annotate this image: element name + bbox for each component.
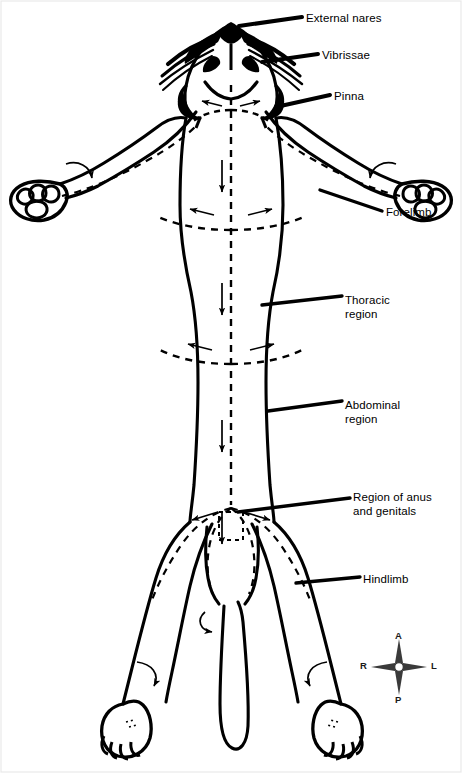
left-forepaw [11,181,68,220]
label-region-of-anus-and-genitals: Region of anus and genitals [353,491,432,518]
right-hindpaw [313,701,363,759]
leader-abdominal [268,401,342,411]
compass-rose [371,639,427,695]
compass-label-anterior: A [395,630,402,641]
label-abdominal-region: Abdominal region [345,399,400,426]
hindpaw-rotation-arrows [137,662,327,686]
figure-cat-ventral-anatomy: External nares Vibrissae Pinna Forelimb … [0,0,462,773]
label-thoracic-region: Thoracic region [345,294,390,321]
thoracic-arc-arrows [190,209,272,215]
label-hindlimb: Hindlimb [363,573,409,587]
leader-anus-genitals [238,498,350,512]
leader-thoracic [262,296,342,305]
compass-label-left: L [431,660,437,671]
pelvic-dashed-arrows [152,508,310,600]
compass-label-right: R [360,660,367,671]
label-pinna: Pinna [334,90,364,104]
leader-hindlimb [296,577,360,583]
compass-label-posterior: P [395,694,401,705]
label-external-nares: External nares [306,12,382,26]
pelvic-arrow-heads [192,512,270,520]
leader-external-nares [239,17,302,26]
leader-forelimb [320,190,382,211]
tail-rotation-arrow [200,612,212,632]
label-vibrissae: Vibrissae [322,49,370,63]
left-hindpaw [102,701,152,759]
anatomy-line-drawing [0,0,462,773]
label-forelimb: Forelimb [386,206,432,220]
forelimb-dashed-paths [62,126,400,196]
